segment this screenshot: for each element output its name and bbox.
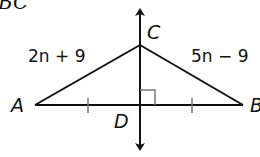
- vertex-label-a: A: [9, 94, 24, 116]
- vertex-label-c: C: [147, 21, 161, 43]
- partial-title-text: BC: [0, 0, 28, 14]
- side-label-bc: 5n − 9: [191, 46, 248, 66]
- right-angle-marker: [140, 90, 155, 105]
- vertex-label-d: D: [114, 110, 129, 132]
- vertex-label-b: B: [250, 94, 260, 116]
- geometry-diagram: BC A B C D 2n + 9 5n − 9: [0, 0, 260, 157]
- side-label-ac: 2n + 9: [28, 46, 85, 66]
